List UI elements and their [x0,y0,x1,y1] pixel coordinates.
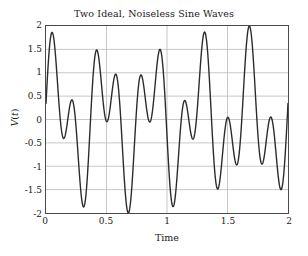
y-tick-label: -1.5 [2,185,42,195]
x-tick-label: 1 [147,216,187,226]
y-tick-label: 2 [2,20,42,30]
series-line [46,26,288,213]
plot-area [45,25,289,214]
x-tick-label: 0 [25,216,65,226]
x-tick-label: 2 [269,216,308,226]
y-axis-label: V(t) [9,96,20,140]
x-axis-tick-labels: 00.511.52 [45,216,289,230]
waveform-curve [46,26,288,213]
x-tick-label: 1.5 [208,216,248,226]
y-tick-label: -0.5 [2,138,42,148]
x-tick-label: 0.5 [86,216,126,226]
y-axis-tick-labels: 21.510.50-0.5-1-1.5-2 [0,25,42,214]
y-tick-label: -1 [2,162,42,172]
x-axis-label: Time [45,232,289,243]
chart-title: Two Ideal, Noiseless Sine Waves [0,8,308,19]
y-tick-label: 1.5 [2,44,42,54]
y-tick-label: 1 [2,67,42,77]
figure: Two Ideal, Noiseless Sine Waves 21.510.5… [0,0,308,256]
